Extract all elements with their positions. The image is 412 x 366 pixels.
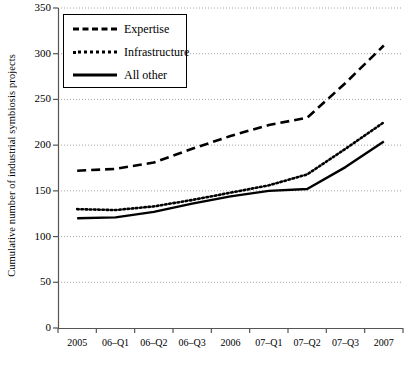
legend-item-infrastructure: Infrastructure [64,40,186,64]
y-axis-tick-label: 250 [17,93,51,104]
y-axis-tick-label: 50 [17,276,51,287]
legend-item-expertise: Expertise [64,17,186,41]
chart-figure: Cumulative number of industrial symbiosi… [0,0,412,366]
y-axis-tick-label: 200 [17,139,51,150]
dashed-line-key [73,23,117,35]
y-axis-ticks [53,8,58,328]
y-axis-tick-label: 0 [17,322,51,333]
legend-item-all-other: All other [64,63,186,87]
legend-label: Infrastructure [124,45,189,60]
y-axis-tick-label: 350 [17,2,51,13]
legend-label: Expertise [124,22,169,37]
legend-label: All other [124,68,167,83]
x-axis-tick-label: 2007 [358,338,410,348]
plot-area [0,0,412,366]
y-axis-tick-label: 150 [17,185,51,196]
legend: Expertise Infrastructure All other [63,14,187,88]
y-axis-tick-label: 100 [17,231,51,242]
y-axis-tick-label: 300 [17,48,51,59]
dotted-line-key [73,46,117,58]
solid-line-key [73,69,117,81]
